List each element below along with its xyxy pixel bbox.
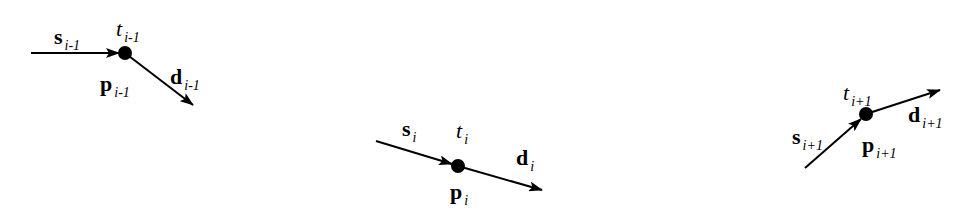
- d-prev-label: di-1: [170, 66, 200, 88]
- s-current-label: si: [402, 118, 416, 140]
- s-prev-label: si-1: [54, 26, 80, 48]
- path-diagram: si-1 ti-1 pi-1 di-1 si ti pi di si+1 ti+…: [0, 0, 976, 213]
- p-current-label: pi: [450, 181, 468, 203]
- d-next-label: di+1: [908, 104, 943, 126]
- p-next-label: pi+1: [862, 134, 897, 156]
- point-next: [859, 107, 873, 121]
- d-current-label: di: [516, 147, 534, 169]
- t-current-label: ti: [456, 120, 468, 142]
- p-prev-label: pi-1: [100, 73, 130, 95]
- t-prev-label: ti-1: [116, 18, 140, 40]
- t-next-label: ti+1: [843, 82, 871, 104]
- s-next-label: si+1: [792, 126, 823, 148]
- vector-layer: [0, 0, 976, 213]
- point-prev: [118, 46, 132, 60]
- point-current: [451, 159, 465, 173]
